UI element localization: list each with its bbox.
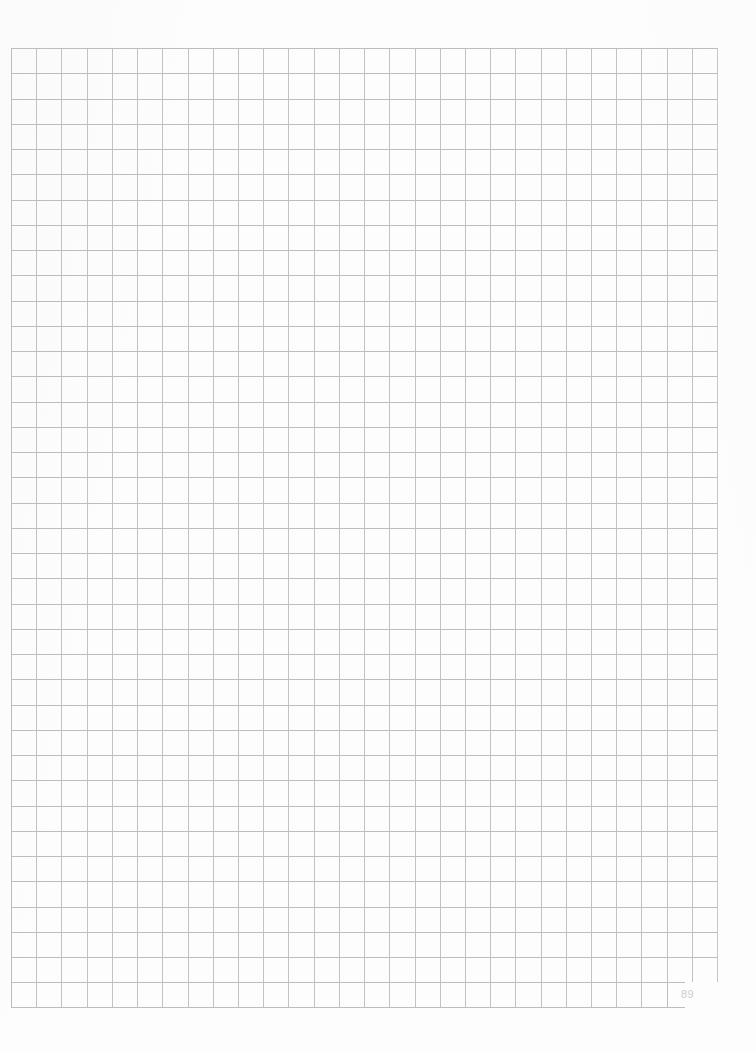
grid-cell [365,731,390,755]
grid-cell [693,478,718,502]
grid-cell [138,74,163,98]
grid-cell [542,251,567,275]
grid-cell [138,882,163,906]
grid-cell [390,453,415,477]
grid-cell [37,680,62,704]
grid-cell [163,251,188,275]
grid-cell [365,49,390,73]
grid-cell [542,125,567,149]
grid-cell [37,807,62,831]
grid-cell [340,958,365,982]
grid-cell [163,74,188,98]
grid-cell [138,983,163,1006]
grid-cell [642,478,667,502]
grid-cell [163,175,188,199]
grid-cell [365,175,390,199]
grid-cell [441,908,466,932]
grid-cell [239,504,264,528]
grid-cell [264,832,289,856]
grid-row [11,553,718,578]
grid-cell [693,908,718,932]
grid-cell [416,49,441,73]
grid-cell [542,226,567,250]
grid-cell [163,49,188,73]
grid-row [11,452,718,477]
grid-cell [88,908,113,932]
grid-cell [88,781,113,805]
grid-cell [12,680,37,704]
grid-cell [668,958,693,982]
grid-cell [239,226,264,250]
grid-cell [516,327,541,351]
grid-cell [88,74,113,98]
grid-cell [264,756,289,780]
grid-cell [289,302,314,326]
grid-cell [542,327,567,351]
grid-cell [340,327,365,351]
grid-cell [189,428,214,452]
grid-cell [416,554,441,578]
grid-cell [668,655,693,679]
grid-cell [642,377,667,401]
grid-cell [113,478,138,502]
grid-cell [138,276,163,300]
grid-cell [668,857,693,881]
grid-cell [466,125,491,149]
grid-cell [189,504,214,528]
grid-cell [365,74,390,98]
grid-row [11,326,718,351]
grid-cell [390,756,415,780]
grid-cell [239,453,264,477]
grid-cell [264,352,289,376]
grid-cell [88,403,113,427]
grid-cell [88,807,113,831]
grid-cell [239,478,264,502]
grid-cell [239,655,264,679]
grid-cell [264,680,289,704]
grid-cell [542,428,567,452]
grid-cell [340,175,365,199]
grid-cell [416,276,441,300]
grid-cell [113,226,138,250]
grid-cell [37,251,62,275]
grid-row [11,477,718,502]
grid-cell [163,352,188,376]
grid-cell [12,100,37,124]
grid-cell [315,756,340,780]
grid-cell [542,74,567,98]
grid-row [11,856,718,881]
grid-row [11,174,718,199]
grid-cell [289,579,314,603]
grid-cell [390,504,415,528]
grid-cell [592,201,617,225]
grid-cell [466,529,491,553]
grid-row [11,881,718,906]
grid-cell [642,983,667,1006]
grid-cell [516,403,541,427]
grid-cell [340,226,365,250]
grid-cell [264,731,289,755]
grid-cell [390,605,415,629]
grid-cell [214,49,239,73]
grid-cell [289,529,314,553]
grid-cell [113,74,138,98]
grid-cell [617,276,642,300]
grid-row [11,124,718,149]
grid-cell [365,428,390,452]
grid-cell [693,958,718,982]
grid-cell [340,377,365,401]
grid-cell [239,529,264,553]
grid-cell [416,251,441,275]
grid-cell [592,983,617,1006]
grid-cell [289,655,314,679]
grid-cell [214,226,239,250]
grid-cell [189,731,214,755]
grid-cell [37,453,62,477]
grid-cell [12,201,37,225]
grid-cell [138,731,163,755]
grid-row [11,503,718,528]
grid-cell [491,933,516,957]
grid-cell [189,251,214,275]
grid-cell [390,150,415,174]
grid-cell [37,781,62,805]
